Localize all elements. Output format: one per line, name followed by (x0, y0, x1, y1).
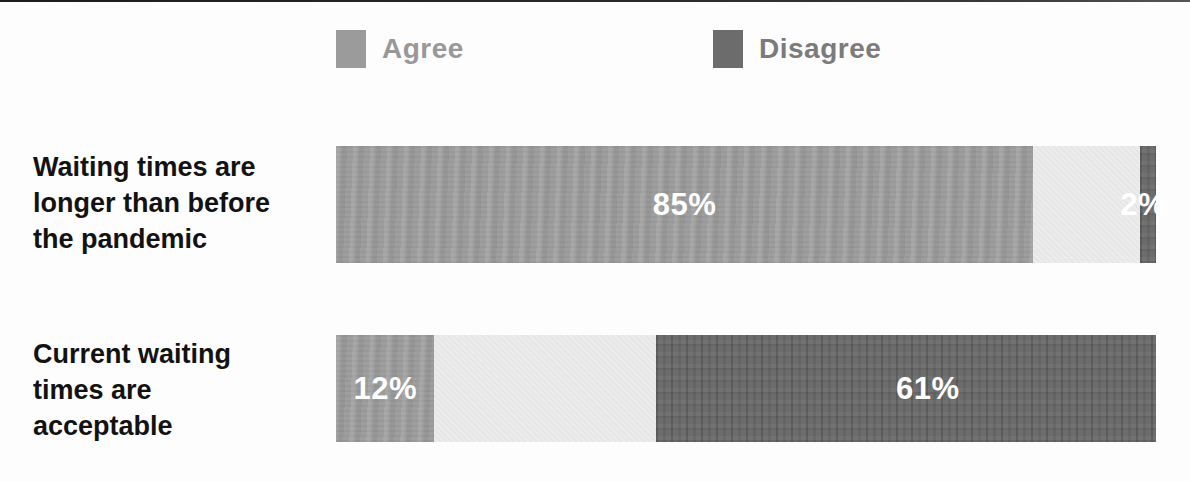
stacked-bar-waiting-times-longer: 85%2% (336, 146, 1156, 263)
bar-segment-disagree: 2% (1140, 146, 1156, 263)
stacked-bar-current-waiting-acceptable: 12%61% (336, 335, 1156, 442)
category-label-waiting-times-longer: Waiting times are longer than before the… (33, 149, 328, 257)
bar-segment-agree: 85% (336, 146, 1033, 263)
category-label-current-waiting-acceptable: Current waiting times are acceptable (33, 336, 328, 444)
chart: Agree Disagree Waiting times are longer … (0, 0, 1190, 481)
bar-value-label: 12% (353, 371, 417, 407)
bar-value-label: 85% (653, 187, 717, 223)
legend-label-disagree: Disagree (759, 33, 881, 65)
disagree-swatch-icon (713, 30, 743, 68)
bar-value-label: 61% (896, 371, 960, 407)
agree-swatch-icon (336, 30, 366, 68)
bar-segment-agree: 12% (336, 335, 434, 442)
top-border-line (0, 0, 1190, 2)
bar-segment-disagree: 61% (656, 335, 1156, 442)
legend-item-agree: Agree (336, 28, 464, 70)
bar-value-label: 2% (1120, 187, 1166, 223)
bar-segment-neutral (434, 335, 655, 442)
legend-item-disagree: Disagree (713, 28, 881, 70)
legend-label-agree: Agree (382, 33, 464, 65)
